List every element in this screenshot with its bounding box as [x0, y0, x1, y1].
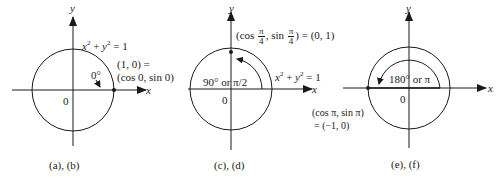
x-axis-label: x — [312, 83, 317, 95]
angle-label: 0° — [91, 69, 101, 81]
origin-label: 0 — [222, 94, 228, 106]
pl-open: (cos — [236, 29, 257, 41]
panel-caption: (a), (b) — [49, 159, 80, 171]
eq-plus: + — [283, 71, 295, 83]
point-label-line2: = (−1, 0) — [314, 120, 349, 132]
circle-equation: x2 + y2 = 1 — [82, 37, 128, 52]
pl-close: ) = (0, 1) — [295, 29, 334, 41]
point-dot — [112, 88, 116, 92]
fraction: π4 — [258, 27, 265, 46]
circle-equation: x2 + y2 = 1 — [275, 68, 321, 83]
angle-label: 90° or π/2 — [203, 76, 247, 88]
fraction: π4 — [288, 27, 295, 46]
point-label-line1: (cos π, sin π) — [312, 107, 364, 119]
eq-rest: = 1 — [304, 71, 321, 83]
frac-den: 4 — [258, 37, 265, 46]
x-axis-label: x — [146, 84, 151, 96]
y-axis-label: y — [70, 2, 75, 14]
y-axis-label: y — [406, 2, 411, 14]
point-label-line1: (1, 0) = — [117, 58, 150, 70]
point-dot — [366, 86, 370, 90]
eq-plus: + — [90, 40, 102, 52]
zero-angle-arrow-icon — [96, 80, 100, 87]
frac-den: 4 — [288, 37, 295, 46]
panel-caption: (c), (d) — [214, 159, 245, 171]
y-axis-label: y — [229, 2, 234, 14]
angle-label: 180° or π — [389, 73, 430, 85]
point-label: (cos π4, sin π4) = (0, 1) — [236, 27, 334, 46]
x-axis-label: x — [488, 82, 493, 94]
point-dot — [229, 50, 233, 54]
origin-label: 0 — [63, 95, 69, 107]
pl-mid: , sin — [266, 29, 287, 41]
eq-rest: = 1 — [111, 40, 128, 52]
origin-label: 0 — [400, 93, 406, 105]
point-label-line2: (cos 0, sin 0) — [117, 71, 174, 83]
panel-caption: (e), (f) — [391, 158, 420, 170]
